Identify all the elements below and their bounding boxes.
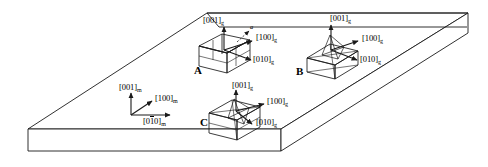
variant-c-axis-001-label: [001]g bbox=[232, 81, 253, 90]
matrix-axis-010-label: [010]m bbox=[143, 117, 166, 126]
variant-c-axis-100-label: [100]g bbox=[267, 97, 288, 106]
variant-a-id-label: A bbox=[194, 65, 202, 76]
slab-front-face bbox=[28, 129, 281, 151]
overbar-digit: 1 bbox=[150, 117, 154, 126]
variant-a-axis-001-label: [001]g bbox=[203, 16, 224, 25]
variant-a-axis-100-label: [100]g bbox=[256, 33, 277, 42]
variant-b-id-label: B bbox=[296, 66, 303, 77]
matrix-axis-100-label: [100]m bbox=[155, 94, 178, 103]
variant-b-axis-010-label: [010]g bbox=[360, 55, 381, 64]
variant-c-axis-010-label: [010]g bbox=[256, 118, 277, 127]
variant-b-axis-100-label: [100]g bbox=[362, 34, 383, 43]
variant-a-axis-010-label: [010]g bbox=[253, 55, 274, 64]
matrix-axis-001-label: [001]m bbox=[119, 83, 142, 92]
variant-b-axis-001-label: [001]g bbox=[330, 14, 351, 23]
variant-c-id-label: C bbox=[200, 117, 208, 128]
crystal-orientation-figure: [001]g [100]g [010]g a A [001]g [100]g [… bbox=[0, 0, 488, 167]
variant-a-annotation-label: a bbox=[250, 24, 253, 31]
